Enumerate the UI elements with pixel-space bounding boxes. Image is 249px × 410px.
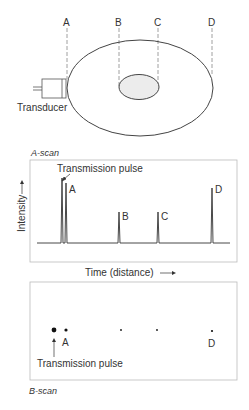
x-axis-arrow-icon [160,271,176,275]
marker-label-c: C [154,17,161,28]
a-scan-caption: A-scan [30,148,59,158]
ultrasound-diagram: A B C D Transducer A-scan Transmission p… [0,0,249,410]
a-scan-peak-label-c: C [161,211,168,222]
b-scan-dot-label-a: A [62,337,69,348]
y-axis-label-group: Intensity [16,180,27,232]
x-axis-label: Time (distance) [85,267,154,278]
a-scan-transmission-label: Transmission pulse [57,163,143,174]
b-scan-caption: B-scan [29,386,57,396]
marker-label-b: B [115,17,122,28]
dot-b [120,329,122,331]
transducer-label: Transducer [17,102,68,113]
dot-c [156,329,158,331]
a-scan-peak-label-b: B [122,211,129,222]
dot-a [64,328,67,331]
marker-label-d: D [208,17,215,28]
marker-label-a: A [63,17,70,28]
dot-d [211,330,213,332]
inner-organ-ellipse [119,75,159,100]
dot-transmission [52,328,57,333]
transducer-icon [33,79,66,98]
b-scan-dot-label-d: D [208,338,215,349]
y-axis-label: Intensity [16,195,27,232]
b-scan-transmission-label: Transmission pulse [37,358,123,369]
a-scan-peak-label-d: D [215,184,222,195]
a-scan-peak-label-a: A [69,184,76,195]
